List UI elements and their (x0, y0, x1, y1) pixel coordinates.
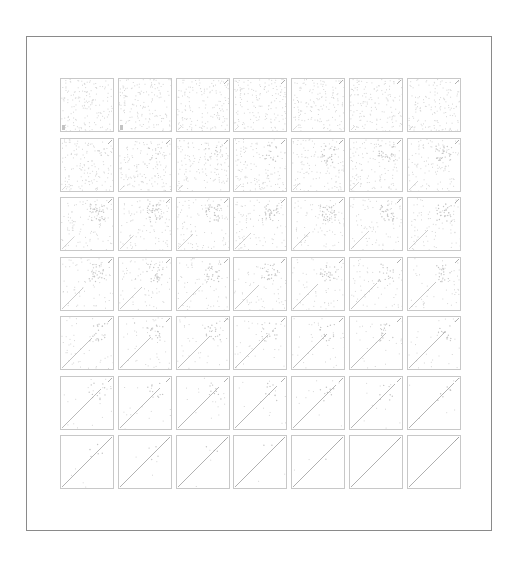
panel-cell (60, 138, 114, 192)
panel-cell (407, 138, 461, 192)
panel-cell (60, 376, 114, 430)
diagonal-line (120, 440, 167, 487)
panel-plot (292, 317, 344, 369)
diagonal-line (409, 383, 454, 428)
diagonal-line (409, 282, 436, 309)
panel-cell (233, 257, 287, 311)
panel-cell (233, 197, 287, 251)
panel-cell (118, 138, 172, 192)
panel-plot (292, 258, 344, 310)
panel-plot (177, 317, 229, 369)
panel-plot (350, 436, 402, 488)
panel-plot (350, 198, 402, 250)
panel-cell (349, 78, 403, 132)
panel-plot (292, 139, 344, 191)
panel-cell (60, 316, 114, 370)
panel-plot (61, 377, 113, 429)
panel-plot (408, 258, 460, 310)
diagonal-line (351, 283, 377, 309)
panel-cell (118, 435, 172, 489)
panel-plot (61, 79, 113, 131)
panel-cell (118, 376, 172, 430)
panel-plot (61, 317, 113, 369)
diagonal-line (120, 337, 151, 368)
panel-cell (407, 376, 461, 430)
panel-plot (234, 377, 286, 429)
panel-cell (176, 197, 230, 251)
panel-cell (291, 257, 345, 311)
panel-plot (61, 139, 113, 191)
panel-cell (291, 316, 345, 370)
panel-plot (350, 317, 402, 369)
diagonal-line (293, 385, 336, 428)
panel-plot (119, 317, 171, 369)
diagonal-line (62, 441, 108, 487)
panel-cell (60, 435, 114, 489)
diagonal-line (351, 438, 400, 487)
diagonal-line (62, 186, 66, 190)
diagonal-line (351, 333, 386, 368)
diagonal-line (235, 233, 251, 249)
panel-cell (176, 316, 230, 370)
panel-cell (118, 316, 172, 370)
panel-plot (177, 436, 229, 488)
diagonal-line (409, 230, 428, 249)
panel-cell (291, 435, 345, 489)
diagonal-line (178, 440, 226, 488)
panel-plot (292, 436, 344, 488)
panel-cell (60, 257, 114, 311)
panel-plot (292, 198, 344, 250)
panel-plot (408, 139, 460, 191)
panel-cell (176, 138, 230, 192)
panel-cell (407, 316, 461, 370)
panel-cell (349, 316, 403, 370)
diagonal-line (235, 335, 268, 368)
diagonal-line (293, 126, 297, 130)
panel-cell (349, 257, 403, 311)
panel-plot (234, 317, 286, 369)
diagonal-line (62, 288, 83, 309)
diagonal-line (120, 236, 134, 250)
panel-plot (61, 436, 113, 488)
panel-plot (177, 139, 229, 191)
panel-plot (61, 198, 113, 250)
panel-plot (408, 436, 460, 488)
diagonal-line (62, 389, 101, 428)
diagonal-line (120, 388, 160, 428)
panel-plot (177, 79, 229, 131)
panel-cell (407, 435, 461, 489)
panel-plot (177, 258, 229, 310)
panel-plot (408, 377, 460, 429)
panel-plot (234, 139, 286, 191)
panel-cell (407, 257, 461, 311)
diagonal-line (293, 334, 327, 368)
panel-cell (60, 78, 114, 132)
panel-cell (349, 138, 403, 192)
panel-plot (234, 79, 286, 131)
diagonal-line (120, 287, 142, 309)
diagonal-line (235, 439, 283, 487)
panel-cell (60, 197, 114, 251)
diagonal-line (120, 186, 125, 191)
panel-cell (291, 197, 345, 251)
panel-cell (291, 78, 345, 132)
panel-cell (176, 435, 230, 489)
panel-cell (291, 376, 345, 430)
diagonal-line (235, 126, 239, 130)
panel-cell (407, 197, 461, 251)
panel-cell (233, 138, 287, 192)
panel-plot (119, 377, 171, 429)
diagonal-line (351, 231, 369, 249)
diagonal-line (409, 437, 459, 487)
panel-plot (408, 317, 460, 369)
panel-plot (234, 198, 286, 250)
panel-cell (407, 78, 461, 132)
panel-cell (233, 435, 287, 489)
diagonal-line (293, 232, 310, 249)
panel-cell (291, 138, 345, 192)
panel-plot (292, 377, 344, 429)
diagonal-line (409, 181, 418, 190)
panel-cell (349, 435, 403, 489)
panel-cell (349, 376, 403, 430)
panel-cell (176, 376, 230, 430)
